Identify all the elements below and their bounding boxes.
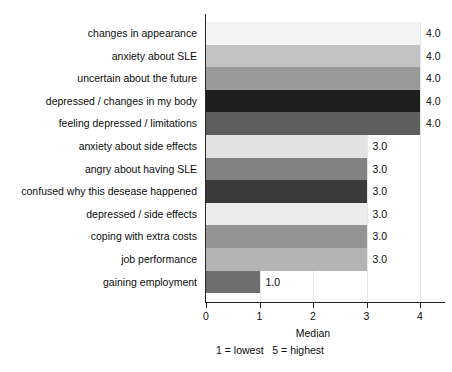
x-axis-tick-label: 3 [364, 310, 370, 322]
bar-row: 4.0 [206, 67, 420, 90]
bar-value-label: 3.0 [367, 203, 388, 226]
bar [206, 248, 367, 271]
category-axis-labels: changes in appearanceanxiety about SLEun… [0, 22, 202, 293]
bar-value-label: 1.0 [260, 271, 281, 294]
x-axis-tick [313, 303, 314, 308]
x-axis-line [206, 302, 445, 303]
x-axis-tick [420, 303, 421, 308]
bar-row: 4.0 [206, 22, 420, 45]
bar [206, 22, 420, 45]
plot-area: 4.04.04.04.04.03.03.03.03.03.03.01.0 [206, 22, 420, 293]
bar [206, 271, 260, 294]
bar-row: 3.0 [206, 203, 420, 226]
bar-value-label: 4.0 [420, 22, 441, 45]
x-axis-tick-label: 0 [203, 310, 209, 322]
category-label: confused why this desease happened [0, 180, 202, 203]
bar-value-label: 3.0 [367, 158, 388, 181]
bar-chart: changes in appearanceanxiety about SLEun… [0, 0, 452, 372]
bar-row: 3.0 [206, 158, 420, 181]
bar [206, 225, 367, 248]
bar-value-label: 4.0 [420, 112, 441, 135]
bar [206, 112, 420, 135]
bar-row: 1.0 [206, 271, 420, 294]
y-axis-line [205, 14, 206, 303]
bar-row: 3.0 [206, 180, 420, 203]
bar-series: 4.04.04.04.04.03.03.03.03.03.03.01.0 [206, 22, 420, 293]
category-label: feeling depressed / limitations [0, 112, 202, 135]
bar-value-label: 4.0 [420, 90, 441, 113]
bar-value-label: 4.0 [420, 45, 441, 68]
bar-value-label: 3.0 [367, 225, 388, 248]
x-axis-tick-label: 2 [310, 310, 316, 322]
x-axis-tick [206, 303, 207, 308]
bar [206, 158, 367, 181]
category-label: angry about having SLE [0, 158, 202, 181]
category-label: job performance [0, 248, 202, 271]
bar-row: 3.0 [206, 135, 420, 158]
bar-value-label: 3.0 [367, 180, 388, 203]
category-label: depressed / side effects [0, 203, 202, 226]
x-axis-tick-label: 4 [417, 310, 423, 322]
bar-row: 4.0 [206, 90, 420, 113]
bar-row: 3.0 [206, 225, 420, 248]
category-label: depressed / changes in my body [0, 90, 202, 113]
category-label: changes in appearance [0, 22, 202, 45]
chart-footnote: 1 = lowest 5 = highest [150, 344, 390, 356]
category-label: anxiety about side effects [0, 135, 202, 158]
bar-row: 4.0 [206, 45, 420, 68]
bar [206, 67, 420, 90]
x-axis-tick [260, 303, 261, 308]
bar [206, 180, 367, 203]
category-label: gaining employment [0, 271, 202, 294]
bar [206, 45, 420, 68]
bar-value-label: 3.0 [367, 248, 388, 271]
category-label: coping with extra costs [0, 225, 202, 248]
category-label: uncertain about the future [0, 67, 202, 90]
bar [206, 203, 367, 226]
category-label: anxiety about SLE [0, 45, 202, 68]
bar [206, 135, 367, 158]
x-axis-tick [367, 303, 368, 308]
x-axis-tick-label: 1 [257, 310, 263, 322]
bar-row: 3.0 [206, 248, 420, 271]
bar-value-label: 4.0 [420, 67, 441, 90]
bar-row: 4.0 [206, 112, 420, 135]
x-axis-title: Median [206, 327, 420, 339]
bar [206, 90, 420, 113]
bar-value-label: 3.0 [367, 135, 388, 158]
